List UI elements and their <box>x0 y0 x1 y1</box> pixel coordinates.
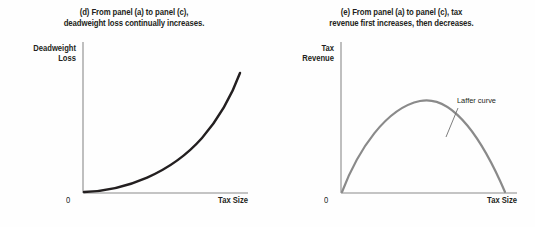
laffer-curve <box>342 100 505 192</box>
panel-d-deadweight-loss: (d) From panel (a) to panel (c), deadwei… <box>0 0 268 227</box>
panel-e-plot <box>268 0 535 227</box>
figure-container: (d) From panel (a) to panel (c), deadwei… <box>0 0 535 227</box>
panel-d-plot <box>0 0 268 227</box>
panel-e-tax-revenue: (e) From panel (a) to panel (c), tax rev… <box>268 0 535 227</box>
panel-d-deadweight-loss-curve <box>84 73 240 192</box>
laffer-curve-leader-line <box>446 108 458 137</box>
